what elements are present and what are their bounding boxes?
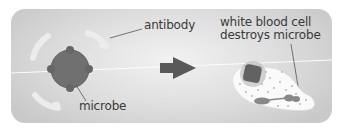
white-blood-cell-label: white blood cell destroys microbe bbox=[220, 16, 321, 42]
white-blood-cell-icon bbox=[232, 61, 314, 111]
microbe-icon bbox=[47, 46, 93, 92]
arrow-right-icon bbox=[160, 57, 196, 79]
antibody-label: antibody bbox=[144, 18, 195, 32]
wbc-label-line-2: destroys microbe bbox=[220, 29, 321, 42]
antibody-leader-line bbox=[110, 29, 142, 38]
microbe-label: microbe bbox=[79, 99, 126, 113]
